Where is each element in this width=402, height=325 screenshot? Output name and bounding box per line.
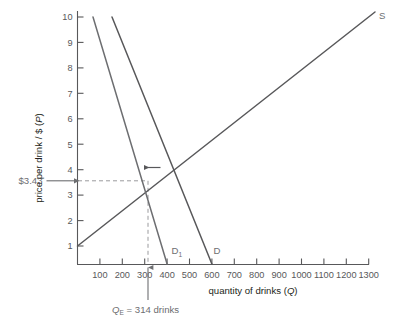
axis-lines — [77, 11, 369, 265]
x-tick-label-1200: 1200 — [336, 270, 356, 280]
x-tick-label-1000: 1000 — [291, 270, 311, 280]
equilibrium-guides — [78, 181, 148, 264]
y-tick-label-2: 2 — [67, 216, 72, 226]
x-tick-label-300: 300 — [137, 270, 152, 280]
y-tick-label-1: 1 — [67, 241, 72, 251]
demand-shifted-curve-line — [93, 17, 167, 264]
demand-shifted-curve-label-base: D — [172, 245, 179, 256]
demand-curve-line — [112, 17, 212, 264]
x-tick-label-600: 600 — [204, 270, 219, 280]
y-tick-label-3: 3 — [67, 190, 72, 200]
chart-canvas: 100 200 300 400 500 600 700 800 900 1000… — [0, 0, 402, 325]
equilibrium-quantity-label: QE = 314 drinks — [112, 304, 179, 317]
y-tick-label-5: 5 — [67, 140, 72, 150]
x-axis-title-close: ) — [294, 285, 297, 296]
x-tick-label-800: 800 — [249, 270, 264, 280]
y-tick-label-10: 10 — [62, 12, 72, 22]
x-tick-label-700: 700 — [227, 270, 242, 280]
x-axis-title: quantity of drinks (Q) — [209, 285, 298, 296]
demand-shifted-curve-label-subscript: 1 — [179, 251, 183, 258]
x-tick-label-100: 100 — [92, 270, 107, 280]
y-axis-tick-labels: 1 2 3 4 5 6 7 8 9 10 — [62, 12, 72, 251]
x-tick-label-1300: 1300 — [358, 270, 378, 280]
y-tick-label-6: 6 — [67, 114, 72, 124]
x-tick-label-900: 900 — [271, 270, 286, 280]
y-tick-label-9: 9 — [67, 38, 72, 48]
y-axis-title-close: ) — [33, 113, 44, 116]
qe-rest: = 314 drinks — [124, 304, 179, 315]
y-axis-ticks — [78, 17, 84, 246]
x-tick-label-400: 400 — [159, 270, 174, 280]
x-axis-ticks — [100, 259, 369, 265]
demand-shifted-curve-label: D 1 — [172, 245, 183, 258]
y-axis-title-main: price per drink / $ ( — [33, 122, 44, 203]
supply-curve-line — [78, 12, 376, 246]
x-tick-label-500: 500 — [182, 270, 197, 280]
x-axis-tick-labels: 100 200 300 400 500 600 700 800 900 1000… — [92, 270, 379, 280]
x-tick-label-1100: 1100 — [314, 270, 334, 280]
y-tick-label-4: 4 — [67, 165, 72, 175]
y-tick-label-7: 7 — [67, 89, 72, 99]
equilibrium-price-callout: $3.43 — [18, 175, 74, 186]
y-tick-label-8: 8 — [67, 63, 72, 73]
supply-demand-chart: 100 200 300 400 500 600 700 800 900 1000… — [0, 0, 402, 325]
supply-curve-label: S — [379, 10, 385, 21]
x-axis-title-main: quantity of drinks ( — [209, 285, 288, 296]
x-tick-label-200: 200 — [115, 270, 130, 280]
y-axis-title: price per drink / $ (P) — [33, 113, 44, 203]
demand-curve-label: D — [214, 245, 221, 256]
